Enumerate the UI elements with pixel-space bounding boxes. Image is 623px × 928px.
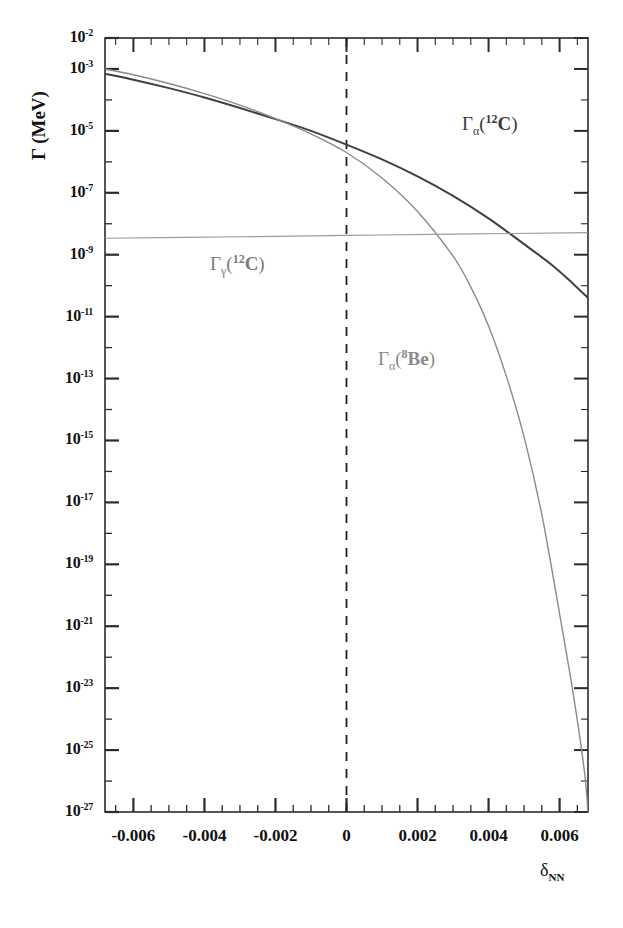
element-symbol: Be xyxy=(408,348,429,369)
curve-label-gamma-c12: Γγ(12C) xyxy=(210,252,265,279)
y-tick-label: 10-27 xyxy=(0,801,93,820)
y-tick-exponent: -17 xyxy=(81,491,93,502)
gamma-glyph: Γ xyxy=(462,113,473,134)
paren-close: ) xyxy=(429,348,435,369)
y-tick-label: 10-15 xyxy=(0,429,93,448)
figure-container: Γ (MeV) δNN Γα(12C) Γγ(12C) Γα(8Be) 10-2… xyxy=(0,0,623,928)
y-tick-label: 10-5 xyxy=(0,120,93,139)
y-tick-mantissa: 10 xyxy=(70,183,86,200)
plot-frame xyxy=(105,38,588,812)
y-tick-exponent: -5 xyxy=(85,120,93,131)
y-tick-exponent: -27 xyxy=(81,801,93,812)
element-symbol: C xyxy=(498,113,512,134)
y-tick-label: 10-21 xyxy=(0,615,93,634)
y-tick-label: 10-17 xyxy=(0,491,93,510)
y-tick-label: 10-19 xyxy=(0,553,93,572)
paren-close: ) xyxy=(258,253,264,274)
y-tick-label: 10-25 xyxy=(0,739,93,758)
x-axis-title-subscript: NN xyxy=(548,871,564,883)
y-tick-mantissa: 10 xyxy=(65,678,81,695)
y-tick-exponent: -15 xyxy=(81,429,93,440)
y-tick-exponent: -13 xyxy=(81,368,93,379)
mass-number: 12 xyxy=(486,112,498,126)
y-tick-exponent: -25 xyxy=(81,739,93,750)
y-tick-mantissa: 10 xyxy=(66,307,82,324)
y-tick-mantissa: 10 xyxy=(65,617,81,634)
curve-label-alpha-c12: Γα(12C) xyxy=(462,112,518,139)
y-tick-mantissa: 10 xyxy=(65,740,81,757)
y-tick-label: 10-23 xyxy=(0,677,93,696)
y-tick-mantissa: 10 xyxy=(70,28,86,45)
y-tick-label: 10-3 xyxy=(0,58,93,77)
y-tick-exponent: -9 xyxy=(85,244,93,255)
x-axis-title: δNN xyxy=(540,860,564,883)
y-tick-mantissa: 10 xyxy=(70,245,86,262)
x-tick-label: 0.006 xyxy=(515,826,605,846)
y-tick-exponent: -2 xyxy=(85,27,93,38)
mass-number: 12 xyxy=(233,252,245,266)
y-tick-mantissa: 10 xyxy=(65,555,81,572)
gamma-glyph: Γ xyxy=(378,348,389,369)
y-tick-label: 10-7 xyxy=(0,182,93,201)
y-tick-mantissa: 10 xyxy=(65,802,81,819)
y-tick-label: 10-2 xyxy=(0,27,93,46)
y-tick-exponent: -7 xyxy=(85,182,93,193)
gamma-glyph: Γ xyxy=(210,253,221,274)
y-tick-label: 10-13 xyxy=(0,368,93,387)
y-tick-mantissa: 10 xyxy=(65,369,81,386)
y-tick-label: 10-11 xyxy=(0,306,93,325)
y-tick-label: 10-9 xyxy=(0,244,93,263)
y-tick-exponent: -19 xyxy=(81,553,93,564)
y-tick-exponent: -21 xyxy=(81,615,93,626)
element-symbol: C xyxy=(245,253,259,274)
y-tick-mantissa: 10 xyxy=(70,121,86,138)
y-tick-mantissa: 10 xyxy=(65,493,81,510)
y-tick-mantissa: 10 xyxy=(70,59,86,76)
y-tick-exponent: -23 xyxy=(81,677,93,688)
chart-canvas xyxy=(0,0,623,928)
curve-label-alpha-be8: Γα(8Be) xyxy=(378,347,435,374)
y-tick-mantissa: 10 xyxy=(65,431,81,448)
paren-close: ) xyxy=(511,113,517,134)
y-tick-exponent: -11 xyxy=(81,306,93,317)
y-tick-exponent: -3 xyxy=(85,58,93,69)
